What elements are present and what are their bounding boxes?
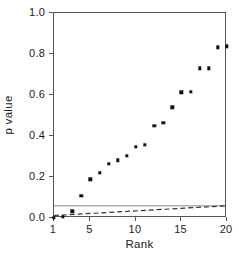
data-point: [52, 216, 55, 219]
data-point: [216, 46, 219, 49]
x-tick-label: 5: [86, 223, 92, 235]
data-point: [71, 210, 74, 213]
data-point: [198, 66, 201, 69]
data-point: [180, 91, 183, 94]
x-tick-label: 1: [50, 223, 56, 235]
plot-frame: [53, 12, 226, 217]
chart-figure: p value 0.00.20.40.60.81.0 15101520 Rank: [0, 0, 239, 261]
data-point: [143, 143, 146, 146]
x-tick-label: 10: [129, 223, 142, 235]
x-tick-label: 20: [220, 223, 233, 235]
data-point: [98, 171, 101, 174]
x-tick-label: 15: [174, 223, 187, 235]
data-point: [171, 106, 174, 109]
data-points-layer: [54, 13, 225, 216]
data-point: [80, 194, 83, 197]
data-point: [134, 145, 137, 148]
data-point: [116, 159, 119, 162]
data-point: [207, 66, 210, 69]
data-point: [162, 121, 165, 124]
data-point: [225, 45, 228, 48]
x-tick-mark: [226, 217, 227, 221]
data-point: [125, 154, 128, 157]
data-point: [189, 90, 192, 93]
data-point: [152, 124, 155, 127]
data-point: [61, 215, 64, 218]
data-point: [107, 162, 110, 165]
data-point: [89, 178, 92, 181]
x-tick-mark: [135, 217, 136, 221]
x-tick-mark: [180, 217, 181, 221]
x-axis-label: Rank: [53, 238, 226, 250]
x-tick-mark: [89, 217, 90, 221]
